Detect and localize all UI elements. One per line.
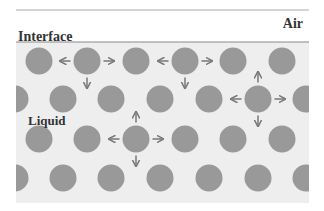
molecule bbox=[50, 86, 77, 113]
air-label: Air bbox=[283, 16, 303, 31]
molecule bbox=[123, 126, 150, 153]
molecule bbox=[196, 86, 223, 113]
molecule bbox=[220, 126, 247, 153]
molecule bbox=[172, 48, 199, 75]
molecule bbox=[2, 165, 29, 192]
molecule bbox=[74, 126, 101, 153]
molecule bbox=[293, 165, 320, 192]
molecule bbox=[26, 126, 53, 153]
molecule bbox=[98, 86, 125, 113]
molecule bbox=[196, 165, 223, 192]
molecule bbox=[26, 48, 53, 75]
molecule bbox=[50, 165, 77, 192]
molecule bbox=[2, 86, 29, 113]
molecule bbox=[269, 126, 296, 153]
molecule bbox=[220, 48, 247, 75]
molecule bbox=[147, 86, 174, 113]
interface-diagram: Air Interface Liquid bbox=[0, 0, 324, 211]
liquid-label: Liquid bbox=[28, 113, 66, 128]
molecule bbox=[147, 165, 174, 192]
molecule bbox=[269, 48, 296, 75]
molecule bbox=[172, 126, 199, 153]
molecule bbox=[74, 48, 101, 75]
molecule bbox=[245, 86, 272, 113]
molecule bbox=[123, 48, 150, 75]
interface-label: Interface bbox=[18, 29, 72, 44]
molecule bbox=[245, 165, 272, 192]
molecule bbox=[98, 165, 125, 192]
molecule bbox=[293, 86, 320, 113]
